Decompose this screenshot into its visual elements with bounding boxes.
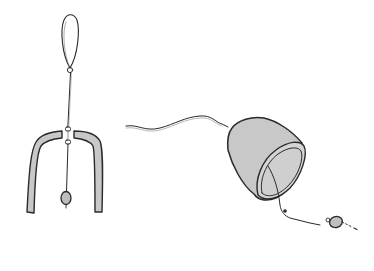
hanging-loop-icon xyxy=(62,15,78,68)
tilted-bell xyxy=(126,116,357,230)
bell-section-right xyxy=(74,131,103,212)
bell-cord xyxy=(126,116,228,129)
cord-knot-icon xyxy=(283,209,287,213)
bell-section-left xyxy=(27,131,62,213)
hanging-wind-chime xyxy=(27,15,103,213)
illustration-canvas xyxy=(0,0,374,271)
clapper-weight-icon xyxy=(61,192,71,205)
